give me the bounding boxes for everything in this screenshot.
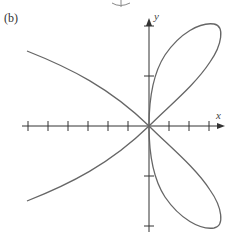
panel-label: (b) xyxy=(4,11,18,26)
lower-loop xyxy=(149,126,221,228)
lower-left-branch xyxy=(27,126,149,201)
x-axis-label: x xyxy=(216,109,221,121)
upper-left-branch xyxy=(27,51,149,126)
x-axis-arrow-icon xyxy=(217,123,225,129)
upper-loop xyxy=(149,24,221,126)
polar-curve-figure xyxy=(0,0,234,233)
y-axis-arrow-icon xyxy=(146,18,152,26)
y-axis-label: y xyxy=(154,10,159,22)
